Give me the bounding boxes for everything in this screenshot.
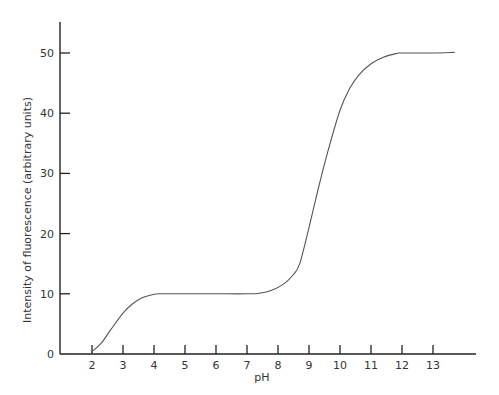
x-tick-label: 7	[244, 359, 251, 372]
fluorescence-curve	[61, 52, 455, 354]
y-ticks: 01020304050	[40, 47, 70, 361]
x-tick-label: 6	[213, 359, 220, 372]
axes	[60, 22, 476, 354]
x-tick-label: 4	[151, 359, 158, 372]
x-tick-label: 5	[182, 359, 189, 372]
y-tick-label: 50	[40, 47, 54, 60]
fluorescence-ph-chart: 2345678910111213 01020304050 pH Intensit…	[0, 0, 499, 395]
x-axis-title: pH	[254, 371, 269, 384]
y-axis-title: Intensity of fluorescence (arbitrary uni…	[21, 97, 34, 323]
x-tick-label: 12	[395, 359, 409, 372]
y-tick-label: 30	[40, 167, 54, 180]
y-tick-label: 0	[47, 348, 54, 361]
x-tick-label: 13	[426, 359, 440, 372]
x-tick-label: 3	[120, 359, 127, 372]
x-tick-label: 2	[89, 359, 96, 372]
y-tick-label: 20	[40, 228, 54, 241]
x-tick-label: 8	[275, 359, 282, 372]
x-tick-label: 10	[333, 359, 347, 372]
x-tick-label: 11	[364, 359, 378, 372]
x-ticks: 2345678910111213	[89, 345, 441, 372]
y-tick-label: 10	[40, 288, 54, 301]
y-tick-label: 40	[40, 107, 54, 120]
x-tick-label: 9	[306, 359, 313, 372]
